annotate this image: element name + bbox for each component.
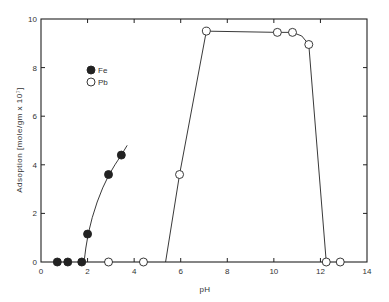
- y-axis-title: Adsoption [mole/gm x 10⁷]: [15, 87, 24, 193]
- fe-data-point: [53, 258, 61, 266]
- x-tick-label: 14: [363, 267, 372, 276]
- pb-data-point: [176, 171, 184, 179]
- y-tick-label: 0: [33, 258, 38, 267]
- fe-data-point: [84, 230, 92, 238]
- filled-circle-icon: [87, 66, 95, 74]
- pb-data-point: [202, 27, 210, 35]
- x-tick-label: 0: [39, 267, 44, 276]
- data-markers: [53, 27, 344, 266]
- x-tick-label: 4: [132, 267, 137, 276]
- fe-data-point: [64, 258, 72, 266]
- pb-data-point: [336, 258, 344, 266]
- fe-curve: [84, 145, 127, 262]
- pb-data-point: [322, 258, 330, 266]
- fe-data-point: [78, 258, 86, 266]
- x-tick-label: 12: [316, 267, 325, 276]
- legend: FePb: [87, 66, 108, 87]
- fe-data-point: [117, 151, 125, 159]
- fe-data-point: [105, 171, 113, 179]
- open-circle-icon: [87, 78, 95, 86]
- pb-data-point: [305, 41, 313, 49]
- legend-label-pb: Pb: [98, 78, 108, 87]
- x-tick-label: 10: [269, 267, 278, 276]
- pb-data-point: [288, 28, 296, 36]
- y-tick-label: 2: [33, 209, 38, 218]
- legend-label-fe: Fe: [98, 66, 108, 75]
- pb-data-point: [105, 258, 113, 266]
- data-curves: [84, 31, 326, 262]
- pb-data-point: [273, 28, 281, 36]
- y-tick-label: 8: [33, 64, 38, 73]
- y-tick-label: 6: [33, 112, 38, 121]
- pb-data-point: [139, 258, 147, 266]
- x-tick-label: 2: [85, 267, 90, 276]
- y-tick-label: 10: [28, 15, 37, 24]
- x-axis-title: pH: [199, 285, 210, 294]
- adsorption-chart: 02468101214 0246810 FePb pH Adsoption [m…: [0, 0, 389, 302]
- x-tick-label: 8: [225, 267, 230, 276]
- x-tick-label: 6: [178, 267, 183, 276]
- y-tick-label: 4: [33, 161, 38, 170]
- pb-curve: [166, 31, 327, 262]
